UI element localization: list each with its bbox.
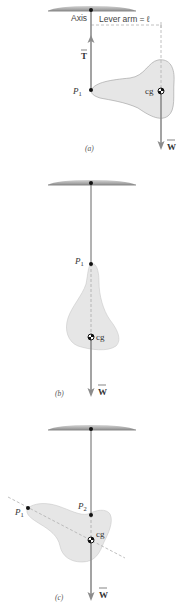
weight-label: W: [167, 142, 176, 152]
cg-label: cg: [96, 529, 105, 539]
point-p1-label: P1: [72, 86, 82, 97]
point-p1-label: P1: [74, 256, 84, 267]
cg-symbol-icon: [158, 88, 164, 94]
panel-c: P1 P2 cg W (c): [8, 425, 136, 602]
point-p2-dot: [89, 513, 93, 517]
pivot-dot: [89, 8, 93, 12]
cg-label: cg: [96, 332, 105, 342]
weight-label: W: [98, 387, 107, 397]
point-p1-dot: [89, 262, 93, 266]
center-of-gravity-diagram: Axis Lever arm = ℓ T P1 cg W (a) P1 cg: [0, 0, 178, 609]
axis-label: Axis: [71, 13, 87, 23]
panel-b: P1 cg W (b): [48, 180, 136, 398]
tension-label: T: [81, 51, 87, 61]
lever-arm-label: Lever arm = ℓ: [99, 14, 150, 24]
panel-b-caption: (b): [55, 389, 64, 398]
cg-label: cg: [145, 86, 154, 96]
point-p1-dot: [89, 88, 93, 92]
pivot-dot: [89, 427, 93, 431]
point-p2-label: P2: [77, 501, 87, 512]
panel-c-caption: (c): [55, 593, 64, 602]
panel-a: Axis Lever arm = ℓ T P1 cg W (a): [48, 6, 176, 153]
cg-symbol-icon: [88, 334, 94, 340]
panel-a-caption: (a): [85, 144, 94, 153]
cg-symbol-icon: [88, 537, 94, 543]
point-p1-label: P1: [14, 507, 24, 518]
pivot-dot: [89, 181, 93, 185]
weight-label: W: [99, 590, 108, 600]
point-p1-dot: [26, 506, 30, 510]
